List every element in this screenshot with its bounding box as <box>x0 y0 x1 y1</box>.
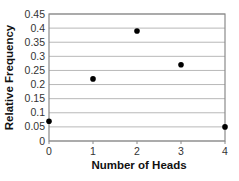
data-point <box>222 124 228 130</box>
data-point <box>46 118 52 124</box>
x-tick-label: 3 <box>178 145 184 157</box>
y-axis-ticks: 00.050.10.150.20.250.30.350.40.45 <box>25 8 46 147</box>
x-tick-label: 1 <box>90 145 96 157</box>
scatter-chart: 00.050.10.150.20.250.30.350.40.45 01234 … <box>0 0 239 181</box>
data-point <box>178 62 184 68</box>
y-tick-label: 0.2 <box>30 78 45 90</box>
data-point <box>134 28 140 34</box>
data-points <box>46 28 228 130</box>
y-tick-label: 0.1 <box>30 106 45 118</box>
y-tick-label: 0.45 <box>25 8 46 20</box>
y-tick-label: 0.3 <box>30 50 45 62</box>
y-tick-label: 0.4 <box>30 22 45 34</box>
x-tick-label: 2 <box>134 145 140 157</box>
data-point <box>90 76 96 82</box>
y-tick-label: 0.05 <box>25 120 46 132</box>
y-tick-label: 0.15 <box>25 92 46 104</box>
y-tick-label: 0.25 <box>25 64 46 76</box>
x-axis-title: Number of Heads <box>91 159 186 171</box>
y-tick-label: 0.35 <box>25 36 46 48</box>
x-tick-label: 0 <box>46 145 52 157</box>
x-axis-ticks: 01234 <box>46 141 228 157</box>
x-tick-label: 4 <box>222 145 228 157</box>
y-axis-title: Relative Frequency <box>3 24 15 130</box>
y-tick-label: 0 <box>39 135 45 147</box>
